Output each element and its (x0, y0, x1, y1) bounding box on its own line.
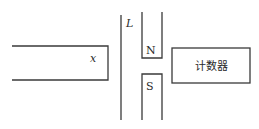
rod-label: x (90, 52, 97, 65)
rod-x: x (12, 46, 108, 80)
conductor-label: L (125, 17, 133, 30)
magnet-south: S (142, 74, 162, 120)
conductor-l: L (121, 15, 133, 120)
counter-box: 计数器 (172, 48, 250, 83)
counter-label: 计数器 (195, 60, 228, 73)
magnet-north: N (142, 12, 162, 58)
south-pole-label: S (146, 80, 154, 93)
north-pole-label: N (146, 44, 156, 57)
diagram-canvas: x L N S 计数器 (0, 0, 259, 129)
